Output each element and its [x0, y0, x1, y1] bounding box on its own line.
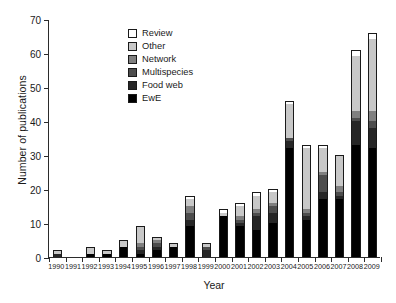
legend-swatch-icon [128, 55, 137, 64]
y-axis-tick-label: 10 [30, 218, 41, 231]
bar-1994 [119, 240, 129, 257]
bar-segment-ewe [136, 254, 146, 257]
y-axis-tick-label: 70 [30, 14, 41, 27]
x-axis-tick-label: 1996 [148, 261, 165, 272]
x-axis-tick-label: 2004 [280, 261, 297, 272]
x-axis-tick-label: 2007 [330, 261, 347, 272]
bar-1996 [152, 237, 162, 257]
x-axis-tick [381, 257, 382, 262]
bar-1998 [185, 196, 195, 257]
legend-label: Review [142, 28, 172, 39]
bar-2009 [368, 33, 378, 257]
bar-segment-food-web [53, 254, 63, 257]
x-axis-tick-label: 1993 [98, 261, 115, 272]
bar-segment-ewe [318, 199, 328, 257]
x-axis-tick-label: 1992 [81, 261, 98, 272]
bar-segment-food-web [185, 220, 195, 227]
legend-label: Food web [142, 80, 183, 91]
x-axis-tick-label: 1991 [65, 261, 82, 272]
bar-segment-ewe [169, 247, 179, 257]
legend-item-network: Network [128, 54, 193, 65]
bar-segment-food-web [268, 213, 278, 223]
bar-segment-food-web [202, 250, 212, 257]
bar-segment-other [136, 226, 146, 243]
bar-segment-other [318, 148, 328, 172]
legend-label: Network [142, 54, 176, 65]
legend-item-ewe: EwE [128, 93, 193, 104]
x-axis-tick-label: 2000 [214, 261, 231, 272]
bar-segment-ewe [285, 148, 295, 257]
legend-swatch-icon [128, 94, 137, 103]
legend-item-multispecies: Multispecies [128, 67, 193, 78]
bar-1993 [102, 250, 112, 257]
legend-swatch-icon [128, 81, 137, 90]
bar-segment-ewe [335, 199, 345, 257]
bar-1992 [86, 247, 96, 257]
y-axis-tick-label: 20 [30, 184, 41, 197]
bar-segment-ewe [219, 216, 229, 257]
bar-segment-network [185, 206, 195, 213]
legend-label: Other [142, 41, 165, 52]
x-axis-tick-label: 2003 [264, 261, 281, 272]
bar-segment-other [335, 155, 345, 186]
bar-segment-ewe [351, 145, 361, 257]
publications-by-year-chart: Number of publications 010203040506070 1… [0, 0, 396, 303]
legend-item-review: Review [128, 28, 193, 39]
bar-segment-multispecies [318, 175, 328, 192]
x-axis-tick-label: 1999 [197, 261, 214, 272]
bar-segment-multispecies [368, 121, 378, 128]
bar-2000 [219, 209, 229, 257]
bar-segment-network [351, 111, 361, 118]
x-axis-tick-label: 2001 [231, 261, 248, 272]
bar-segment-other [185, 199, 195, 206]
legend-label: EwE [142, 93, 161, 104]
y-axis-tick-label: 50 [30, 82, 41, 95]
bar-segment-food-web [351, 121, 361, 145]
x-axis-title: Year [48, 278, 380, 292]
bar-segment-other [235, 206, 245, 216]
x-axis-tick-label: 1990 [48, 261, 65, 272]
y-axis-tick-label: 60 [30, 48, 41, 61]
bar-segment-network [368, 111, 378, 121]
x-axis-tick-label: 2002 [247, 261, 264, 272]
x-axis-tick-label: 1998 [181, 261, 198, 272]
bar-1995 [136, 226, 146, 257]
chart-legend: ReviewOtherNetworkMultispeciesFood webEw… [128, 28, 193, 104]
bar-segment-other [302, 148, 312, 209]
x-axis-tick-label: 2005 [297, 261, 314, 272]
bar-segment-ewe [86, 254, 96, 257]
legend-item-food-web: Food web [128, 80, 193, 91]
bar-segment-review [351, 50, 361, 57]
bar-2005 [302, 145, 312, 257]
bar-segment-review [368, 33, 378, 40]
plot-area: 010203040506070 [48, 20, 380, 258]
bar-2003 [268, 189, 278, 257]
bar-segment-other [252, 196, 262, 210]
y-axis-tick-label: 40 [30, 116, 41, 129]
x-axis-tick-label: 2006 [314, 261, 331, 272]
bar-segment-ewe [268, 223, 278, 257]
bar-segment-ewe [152, 250, 162, 257]
bar-segment-other [368, 39, 378, 110]
bar-2006 [318, 145, 328, 257]
bar-segment-multispecies [268, 206, 278, 213]
x-axis-tick-label: 1995 [131, 261, 148, 272]
y-axis-title: Number of publications [14, 10, 30, 250]
bar-segment-other [285, 104, 295, 138]
legend-swatch-icon [128, 68, 137, 77]
bar-segment-other [268, 192, 278, 202]
x-axis-tick-label: 2009 [363, 261, 380, 272]
bar-segment-ewe [119, 247, 129, 257]
bar-segment-other [86, 247, 96, 254]
bar-series-group [49, 20, 380, 257]
x-axis-tick-label: 1997 [164, 261, 181, 272]
legend-swatch-icon [128, 29, 137, 38]
bar-segment-food-web [368, 128, 378, 148]
bar-segment-ewe [185, 226, 195, 257]
bar-segment-other [351, 56, 361, 110]
x-axis-tick-labels: 1990199119921993199419951996199719981999… [48, 261, 380, 275]
x-axis-tick-label: 1994 [114, 261, 131, 272]
bar-segment-ewe [252, 230, 262, 257]
bar-segment-other [119, 240, 129, 247]
bar-2004 [285, 101, 295, 257]
